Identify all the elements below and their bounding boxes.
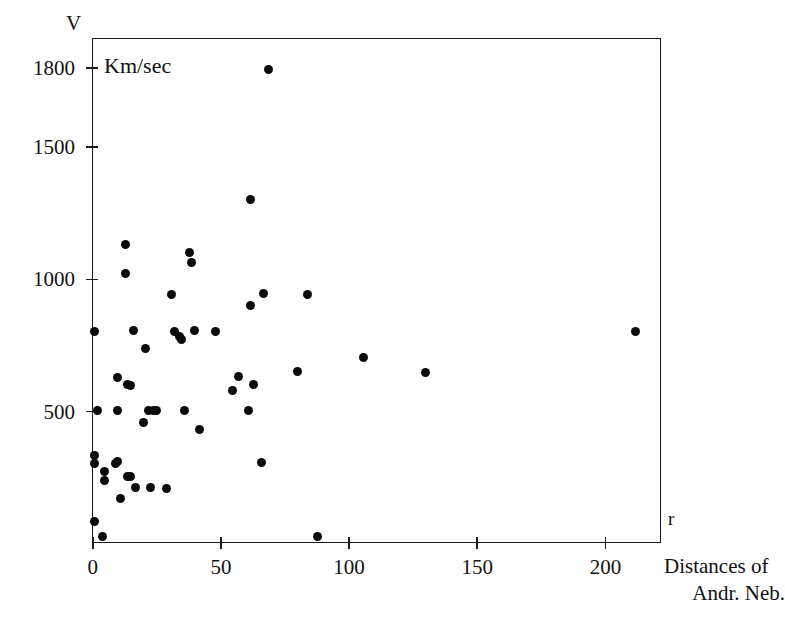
data-point [249, 380, 258, 389]
y-tick-label-1000: 1000 [33, 269, 75, 290]
data-point [146, 483, 155, 492]
data-point [177, 335, 186, 344]
data-point [180, 406, 189, 415]
data-point [152, 406, 161, 415]
data-point [100, 467, 109, 476]
data-point [90, 327, 99, 336]
data-point [126, 381, 135, 390]
data-point [631, 327, 640, 336]
x-axis-title: r [668, 509, 674, 528]
y-axis-title: V [66, 13, 81, 34]
x-tick-label-0: 0 [88, 557, 99, 578]
data-point [234, 372, 243, 381]
data-point [190, 326, 199, 335]
data-point [131, 483, 140, 492]
y-tick-label-1500: 1500 [33, 137, 75, 158]
data-point [257, 458, 266, 467]
data-point [187, 258, 196, 267]
y-tick-label-1800: 1800 [33, 57, 75, 78]
data-point [126, 472, 135, 481]
data-point [195, 425, 204, 434]
scatter-plot-figure: V r Km/sec Distances of Andr. Neb. 50010… [0, 0, 785, 624]
data-point [359, 353, 368, 362]
x-tick-0: 0 [92, 537, 94, 549]
data-point [113, 406, 122, 415]
x-caption-line-2: Andr. Neb. [664, 580, 785, 607]
data-point [113, 457, 122, 466]
y-tick-1800: 1800 [86, 67, 98, 69]
plot-area: 500100015001800 050100150200 [92, 38, 661, 543]
data-point [211, 327, 220, 336]
x-tick-label-50: 50 [210, 557, 231, 578]
data-point [246, 301, 255, 310]
data-point [162, 484, 171, 493]
data-point [113, 373, 122, 382]
data-point [93, 406, 102, 415]
data-point [313, 532, 322, 541]
data-point [167, 290, 176, 299]
y-tick-1000: 1000 [86, 279, 98, 281]
data-point [129, 326, 138, 335]
x-tick-200: 200 [605, 537, 607, 549]
x-tick-label-200: 200 [590, 557, 622, 578]
data-point [100, 476, 109, 485]
x-tick-150: 150 [476, 537, 478, 549]
data-point [121, 240, 130, 249]
y-tick-1500: 1500 [86, 146, 98, 148]
x-caption-line-1: Distances of [664, 554, 768, 578]
data-point [293, 367, 302, 376]
x-tick-label-100: 100 [333, 557, 365, 578]
data-point [264, 65, 273, 74]
y-tick-label-500: 500 [44, 401, 76, 422]
data-point [259, 289, 268, 298]
data-point [90, 459, 99, 468]
data-point [116, 494, 125, 503]
x-tick-label-150: 150 [462, 557, 494, 578]
data-point [185, 248, 194, 257]
data-point [90, 517, 99, 526]
x-axis-caption: Distances of Andr. Neb. [664, 553, 785, 607]
data-point [303, 290, 312, 299]
x-tick-100: 100 [348, 537, 350, 549]
data-point [139, 418, 148, 427]
data-point [121, 269, 130, 278]
data-point [244, 406, 253, 415]
data-point [141, 344, 150, 353]
data-point [98, 532, 107, 541]
data-point [421, 368, 430, 377]
data-point [228, 386, 237, 395]
data-point [246, 195, 255, 204]
x-tick-50: 50 [220, 537, 222, 549]
